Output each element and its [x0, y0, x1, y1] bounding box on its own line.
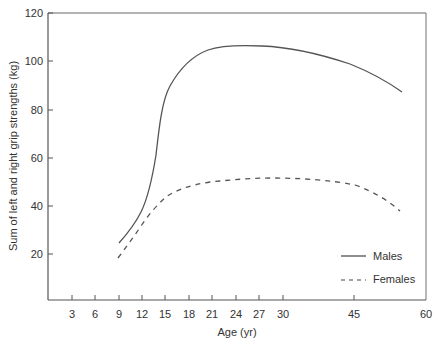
x-tick-label: 18	[183, 308, 195, 320]
y-axis-tick-labels: 20 40 60 80 100 120	[25, 7, 43, 260]
y-tick-label: 20	[31, 248, 43, 260]
males-curve	[119, 45, 402, 243]
y-tick-label: 80	[31, 104, 43, 116]
y-tick-label: 40	[31, 200, 43, 212]
y-axis-title: Sum of left and right grip strengths (kg…	[7, 61, 19, 251]
x-tick-label: 24	[230, 308, 242, 320]
x-tick-label: 45	[348, 308, 360, 320]
legend-males-label: Males	[373, 250, 403, 262]
x-tick-label: 6	[92, 308, 98, 320]
x-axis-title: Age (yr)	[217, 326, 256, 338]
x-axis-ticks	[72, 295, 354, 300]
plot-frame	[48, 13, 426, 300]
x-tick-label: 15	[159, 308, 171, 320]
x-tick-label: 3	[69, 308, 75, 320]
y-tick-label: 100	[25, 55, 43, 67]
x-tick-label: 9	[116, 308, 122, 320]
y-tick-label: 120	[25, 7, 43, 19]
legend-females-label: Females	[373, 273, 416, 285]
x-axis-tick-labels: 3 6 9 12 15 18 21 24 27 30 45 60	[69, 308, 432, 320]
grip-strength-chart: 20 40 60 80 100 120 3 6 9 12 15 18 21 24…	[0, 0, 444, 354]
x-tick-label: 12	[136, 308, 148, 320]
y-tick-label: 60	[31, 152, 43, 164]
x-tick-label: 30	[277, 308, 289, 320]
y-axis-ticks	[48, 13, 53, 254]
x-tick-label: 60	[420, 308, 432, 320]
x-tick-label: 21	[206, 308, 218, 320]
females-curve	[118, 178, 400, 258]
x-tick-label: 27	[253, 308, 265, 320]
legend: Males Females	[341, 250, 416, 285]
